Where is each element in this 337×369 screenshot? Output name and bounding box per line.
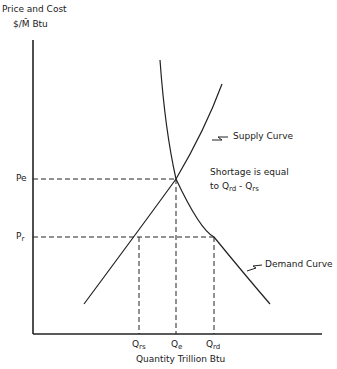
shortage-annotation-line2: to Qrd - Qrs: [210, 181, 259, 195]
annotation-prefix: to Q: [210, 181, 229, 191]
qrd-label: Qrd: [206, 339, 220, 353]
y-axis-label-line1: Price and Cost: [2, 4, 67, 15]
x-axis-label: Quantity Trillion Btu: [136, 354, 225, 365]
pr-sub: r: [21, 235, 24, 243]
shortage-annotation-line1: Shortage is equal: [210, 167, 289, 178]
diagram-canvas: [0, 0, 337, 369]
demand-curve-label: Demand Curve: [265, 259, 333, 270]
pr-label: Pr: [16, 231, 24, 245]
pe-label: Pe: [16, 173, 27, 184]
y-axis-label-line2: $/M̄ Btu: [13, 19, 48, 30]
qe-sub: e: [178, 343, 182, 351]
supply-leader: [212, 137, 228, 140]
qrs-label: Qrs: [132, 339, 146, 353]
supply-curve-label: Supply Curve: [233, 131, 293, 142]
demand-leader: [247, 265, 262, 271]
pe-sub: e: [21, 173, 27, 183]
qrs-sub: rs: [139, 343, 146, 351]
qe-label: Qe: [171, 339, 182, 353]
supply-curve: [84, 84, 222, 304]
annotation-mid: - Q: [236, 181, 252, 191]
annotation-sub-rs: rs: [252, 185, 259, 193]
qrd-sub: rd: [213, 343, 220, 351]
